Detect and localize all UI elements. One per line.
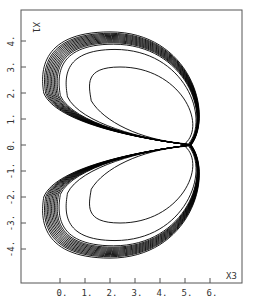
x-axis-label: X3 (226, 271, 237, 281)
lower-lobe-loop (52, 145, 199, 251)
x-tick-label: 6. (207, 288, 218, 298)
y-tick-label: 4. (6, 36, 16, 47)
upper-lobe-loop (90, 67, 193, 144)
y-axis: 4.3.2.1.0.-1.-2.-3.-4. (6, 36, 26, 258)
x-tick-label: 1. (82, 288, 93, 298)
x-tick-label: 0. (57, 288, 68, 298)
y-tick-label: -2. (6, 189, 16, 205)
upper-lobe-loop (52, 39, 199, 145)
x-tick-label: 5. (182, 288, 193, 298)
x-tick-label: 4. (157, 288, 168, 298)
lower-lobe-loop (53, 145, 198, 250)
x-tick-label: 2. (107, 288, 118, 298)
trajectory-curves (43, 32, 200, 258)
x-tick-label: 3. (132, 288, 143, 298)
y-tick-label: -4. (6, 241, 16, 257)
x-axis: 0.1.2.3.4.5.6. (57, 278, 218, 298)
y-tick-label: -3. (6, 215, 16, 231)
y-tick-label: -1. (6, 163, 16, 179)
attractor-chart: 4.3.2.1.0.-1.-2.-3.-4. 0.1.2.3.4.5.6. X1… (0, 0, 253, 303)
y-tick-label: 0. (6, 140, 16, 151)
upper-lobe-loop (53, 40, 198, 145)
y-tick-label: 1. (6, 114, 16, 125)
y-tick-label: 2. (6, 88, 16, 99)
y-tick-label: 3. (6, 62, 16, 73)
y-axis-label: X1 (31, 22, 41, 33)
lower-lobe-loop (90, 146, 193, 223)
